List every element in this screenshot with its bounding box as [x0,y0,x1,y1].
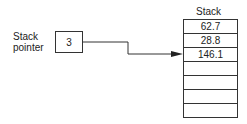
stack-cell: 146.1 [184,48,237,62]
pointer-label-line2: pointer [13,42,44,53]
stack-cell [184,104,237,117]
stack-cell: 28.8 [184,34,237,48]
stack-title: Stack [196,6,221,17]
stack-pointer-box: 3 [55,31,83,53]
stack-cell [184,62,237,76]
stack-cell [184,76,237,90]
stack-cell: 62.7 [184,20,237,34]
stack-box: 62.7 28.8 146.1 [183,19,238,118]
pointer-label-line1: Stack [13,31,38,42]
stack-cell [184,90,237,104]
